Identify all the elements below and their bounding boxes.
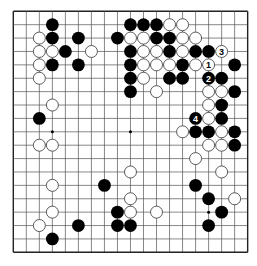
white-stone	[203, 86, 215, 98]
white-stone	[164, 59, 176, 71]
black-stone	[202, 45, 215, 58]
white-stone	[138, 59, 150, 71]
white-stone	[138, 32, 150, 44]
black-stone	[189, 125, 202, 138]
white-stone	[151, 86, 163, 98]
numbered-move-2: 2	[202, 72, 215, 85]
black-stone	[215, 206, 228, 219]
star-point	[207, 211, 210, 214]
black-stone	[111, 206, 124, 219]
black-stone	[215, 112, 228, 125]
black-stone	[46, 18, 59, 31]
white-stone	[190, 59, 202, 71]
black-stone	[124, 72, 137, 85]
white-stone	[216, 166, 228, 178]
white-stone	[229, 193, 241, 205]
black-stone	[72, 219, 85, 232]
move-number-label: 2	[206, 74, 211, 84]
white-stone	[124, 193, 136, 205]
white-stone	[33, 72, 45, 84]
white-stone	[203, 112, 215, 124]
star-point	[129, 130, 132, 133]
white-stone	[124, 206, 136, 218]
numbered-move-4: 4	[189, 112, 202, 125]
white-stone	[85, 45, 97, 57]
white-stone	[177, 45, 189, 57]
black-stone	[150, 18, 163, 31]
black-stone	[33, 112, 46, 125]
white-stone	[46, 45, 58, 57]
white-stone	[203, 139, 215, 151]
white-stone	[151, 206, 163, 218]
black-stone	[228, 58, 241, 71]
black-stone	[228, 125, 241, 138]
white-stone	[216, 139, 228, 151]
white-stone	[190, 153, 202, 165]
white-stone	[177, 32, 189, 44]
move-number-label: 4	[193, 114, 198, 124]
white-stone	[138, 45, 150, 57]
black-stone	[176, 72, 189, 85]
white-stone	[124, 166, 136, 178]
black-stone	[124, 18, 137, 31]
white-stone	[177, 126, 189, 138]
white-stone	[46, 206, 58, 218]
white-stone	[164, 19, 176, 31]
white-stone	[46, 99, 58, 111]
white-stone	[203, 99, 215, 111]
white-stone	[151, 59, 163, 71]
black-stone	[215, 72, 228, 85]
black-stone	[163, 32, 176, 45]
black-stone	[202, 125, 215, 138]
black-stone	[215, 99, 228, 112]
numbered-move-1: 1	[203, 59, 215, 71]
black-stone	[72, 32, 85, 45]
black-stone	[202, 219, 215, 232]
black-stone	[228, 139, 241, 152]
black-stone	[228, 85, 241, 98]
move-number-label: 3	[219, 47, 224, 57]
white-stone	[151, 45, 163, 57]
black-stone	[46, 233, 59, 246]
black-stone	[202, 192, 215, 205]
black-stone	[124, 219, 137, 232]
white-stone	[33, 32, 45, 44]
black-stone	[150, 32, 163, 45]
black-stone	[176, 58, 189, 71]
black-stone	[124, 45, 137, 58]
move-number-label: 1	[206, 60, 211, 70]
black-stone	[46, 32, 59, 45]
black-stone	[124, 85, 137, 98]
white-stone	[138, 72, 150, 84]
numbered-move-3: 3	[216, 45, 228, 57]
white-stone	[33, 139, 45, 151]
white-stone	[33, 45, 45, 57]
black-stone	[46, 58, 59, 71]
black-stone	[111, 32, 124, 45]
black-stone	[163, 45, 176, 58]
white-stone	[46, 179, 58, 191]
go-board[interactable]: 1234	[0, 0, 257, 266]
white-stone	[190, 32, 202, 44]
white-stone	[177, 19, 189, 31]
black-stone	[124, 58, 137, 71]
black-stone	[189, 45, 202, 58]
white-stone	[124, 32, 136, 44]
black-stone	[163, 72, 176, 85]
white-stone	[33, 59, 45, 71]
black-stone	[72, 58, 85, 71]
black-stone	[111, 219, 124, 232]
white-stone	[216, 86, 228, 98]
star-point	[51, 130, 54, 133]
black-stone	[189, 179, 202, 192]
black-stone	[98, 179, 111, 192]
black-stone	[137, 18, 150, 31]
white-stone	[33, 220, 45, 232]
white-stone	[216, 126, 228, 138]
black-stone	[59, 45, 72, 58]
white-stone	[46, 139, 58, 151]
